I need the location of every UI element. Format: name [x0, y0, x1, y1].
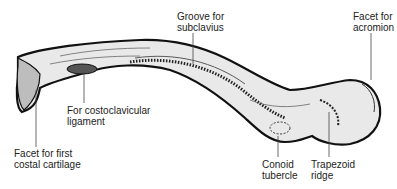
- label-facet-for-acromion: Facet for acromion: [353, 11, 394, 33]
- label-line: ligament: [67, 116, 150, 127]
- label-line: subclavius: [177, 22, 224, 33]
- label-conoid-tubercle: Conoid tubercle: [262, 159, 298, 181]
- label-line: costal cartilage: [14, 159, 81, 170]
- label-facet-first-costal-cartilage: Facet for first costal cartilage: [14, 148, 81, 170]
- clavicle-bone-shape: [17, 40, 380, 145]
- clavicle-diagram: Groove for subclavius Facet for acromion…: [0, 0, 397, 189]
- label-groove-for-subclavius: Groove for subclavius: [177, 11, 224, 33]
- label-line: Facet for: [353, 11, 394, 22]
- label-line: Groove for: [177, 11, 224, 22]
- label-trapezoid-ridge: Trapezoid ridge: [311, 159, 355, 181]
- label-line: tubercle: [262, 170, 298, 181]
- costoclavicular-impression: [67, 64, 97, 74]
- label-line: Facet for first: [14, 148, 81, 159]
- label-costoclavicular-ligament: For costoclavicular ligament: [67, 105, 150, 127]
- label-line: Conoid: [262, 159, 298, 170]
- label-line: Trapezoid: [311, 159, 355, 170]
- label-line: acromion: [353, 22, 394, 33]
- label-line: For costoclavicular: [67, 105, 150, 116]
- label-line: ridge: [311, 170, 355, 181]
